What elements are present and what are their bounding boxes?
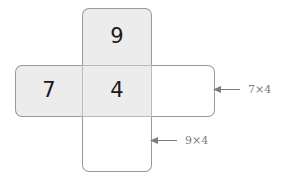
cell-left-seven: 7: [15, 65, 82, 117]
annotation-seven-times-four-label: 7×4: [248, 84, 271, 95]
arrow-left-icon: [150, 135, 178, 146]
annotation-seven-times-four: 7×4: [213, 84, 271, 95]
annotation-nine-times-four: 9×4: [150, 135, 208, 146]
cell-right-blank: [152, 65, 215, 117]
cell-bottom-blank: [82, 117, 152, 172]
annotation-nine-times-four-label: 9×4: [185, 135, 208, 146]
cell-left-value: 7: [42, 80, 55, 101]
cell-top-nine: 9: [82, 8, 152, 65]
cell-center-value: 4: [110, 80, 123, 101]
arrow-left-icon: [213, 84, 241, 95]
figure-canvas: 7 9 4 7×4 9×4: [0, 0, 296, 183]
cell-top-value: 9: [110, 26, 123, 47]
cell-center-four: 4: [82, 65, 152, 117]
